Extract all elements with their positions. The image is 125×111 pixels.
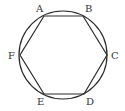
- vertex-label-d: D: [86, 96, 94, 107]
- circumscribed-circle: [19, 11, 107, 99]
- vertex-label-b: B: [85, 3, 92, 14]
- vertex-label-c: C: [111, 50, 119, 61]
- vertex-label-e: E: [37, 96, 44, 107]
- hexagon-abcdef: [20, 16, 107, 94]
- vertex-label-a: A: [35, 3, 44, 14]
- hexagon-in-circle-diagram: A B C D E F: [0, 0, 125, 111]
- vertex-label-f: F: [8, 50, 15, 61]
